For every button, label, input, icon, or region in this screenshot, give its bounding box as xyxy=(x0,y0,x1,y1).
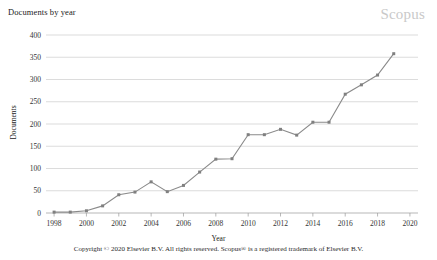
x-tick-label: 1998 xyxy=(47,219,62,228)
data-point-marker xyxy=(214,158,217,161)
y-tick-label: 400 xyxy=(30,31,42,40)
data-point-marker xyxy=(311,121,314,124)
data-point-marker xyxy=(376,74,379,77)
data-point-marker xyxy=(263,133,266,136)
x-tick-label: 2016 xyxy=(338,219,353,228)
x-tick-label: 2000 xyxy=(79,219,94,228)
y-tick-label: 150 xyxy=(30,142,42,151)
x-tick-label: 2002 xyxy=(111,219,126,228)
data-point-marker xyxy=(182,184,185,187)
data-point-marker xyxy=(328,121,331,124)
data-point-marker xyxy=(392,52,395,55)
y-tick-label: 300 xyxy=(30,75,42,84)
x-tick-label: 2020 xyxy=(402,219,417,228)
x-tick-label: 2004 xyxy=(144,219,159,228)
documents-by-year-chart: Documents by year Scopus 050100150200250… xyxy=(0,0,437,260)
y-tick-label: 100 xyxy=(30,164,42,173)
series-line-documents xyxy=(54,54,394,212)
data-point-marker xyxy=(295,134,298,137)
x-tick-label: 2010 xyxy=(241,219,256,228)
data-point-marker xyxy=(150,180,153,183)
data-point-marker xyxy=(166,190,169,193)
data-point-marker xyxy=(231,157,234,160)
x-tick-label: 2018 xyxy=(370,219,385,228)
x-tick-label: 2006 xyxy=(176,219,191,228)
data-point-marker xyxy=(344,93,347,96)
data-point-marker xyxy=(247,133,250,136)
copyright-footer: Copyright © 2020 Elsevier B.V. All right… xyxy=(0,245,437,253)
y-tick-label: 250 xyxy=(30,97,42,106)
y-tick-label: 50 xyxy=(34,186,42,195)
y-tick-label: 200 xyxy=(30,120,42,129)
x-tick-label: 2012 xyxy=(273,219,288,228)
data-point-marker xyxy=(85,209,88,212)
data-point-marker xyxy=(101,204,104,207)
data-point-marker xyxy=(117,193,120,196)
data-point-marker xyxy=(69,211,72,214)
x-tick-label: 2008 xyxy=(208,219,223,228)
y-tick-label: 350 xyxy=(30,53,42,62)
data-point-marker xyxy=(133,191,136,194)
x-axis-label: Year xyxy=(0,234,437,243)
data-point-marker xyxy=(198,171,201,174)
plot-area: 0501001502002503003504001998200020022004… xyxy=(0,0,437,232)
y-tick-label: 0 xyxy=(37,209,41,218)
data-point-marker xyxy=(360,83,363,86)
y-axis-label: Documents xyxy=(9,88,18,158)
data-point-marker xyxy=(53,211,56,214)
x-tick-label: 2014 xyxy=(305,219,320,228)
data-point-marker xyxy=(279,128,282,131)
